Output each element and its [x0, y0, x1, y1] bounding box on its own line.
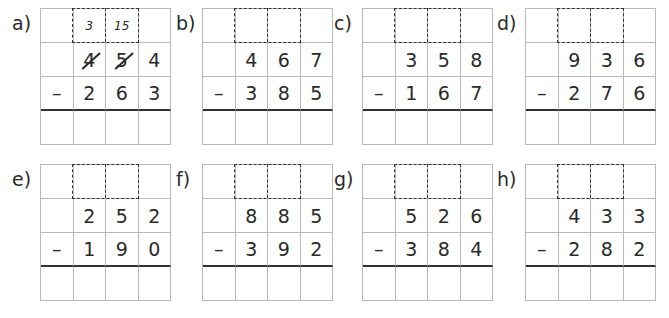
digit-cell: 4: [236, 43, 269, 77]
answer-cell[interactable]: [106, 267, 139, 301]
carry-cell[interactable]: [363, 9, 396, 43]
digit-cell: 9: [559, 43, 592, 77]
answer-cell[interactable]: [41, 111, 74, 145]
carry-cell[interactable]: [461, 165, 494, 199]
answer-cell[interactable]: [396, 111, 429, 145]
answer-cell[interactable]: [139, 111, 172, 145]
digit-cell: 5: [301, 199, 334, 233]
carry-cell[interactable]: [41, 165, 74, 199]
digit-cell: 6: [428, 77, 461, 111]
answer-cell[interactable]: [559, 111, 592, 145]
digit: 4: [245, 49, 257, 71]
digit: 9: [568, 49, 580, 71]
digit-cell: 2: [624, 233, 657, 267]
answer-cell[interactable]: [591, 267, 624, 301]
answer-cell[interactable]: [428, 267, 461, 301]
digit: 9: [278, 238, 290, 260]
carry-cell[interactable]: [591, 9, 624, 43]
answer-cell[interactable]: [203, 267, 236, 301]
answer-cell[interactable]: [396, 267, 429, 301]
carry-cell[interactable]: [559, 165, 592, 199]
column-subtraction-grid: 252–190: [40, 164, 171, 301]
carry-cell[interactable]: [428, 9, 461, 43]
carry-cell[interactable]: [396, 9, 429, 43]
digit-cell: [203, 43, 236, 77]
digit-cell: 3: [396, 233, 429, 267]
answer-cell[interactable]: [139, 267, 172, 301]
problem-label: e): [12, 170, 31, 189]
carry-cell[interactable]: [396, 165, 429, 199]
digit: 8: [470, 49, 482, 71]
digit: 3: [601, 49, 613, 71]
carry-cell[interactable]: [236, 9, 269, 43]
digit-cell: 8: [428, 233, 461, 267]
carry-cell[interactable]: [106, 165, 139, 199]
answer-cell[interactable]: [74, 267, 107, 301]
answer-cell[interactable]: [203, 111, 236, 145]
carry-cell[interactable]: [624, 165, 657, 199]
digit-cell: 5: [396, 199, 429, 233]
digit-cell: 6: [624, 77, 657, 111]
carry-cell[interactable]: [74, 165, 107, 199]
answer-cell[interactable]: [591, 111, 624, 145]
carry-cell[interactable]: [203, 9, 236, 43]
digit-cell: 4: [559, 199, 592, 233]
digit: 7: [470, 82, 482, 104]
carry-cell[interactable]: 15: [106, 9, 139, 43]
digit-cell: 3: [591, 43, 624, 77]
minus-sign: –: [374, 82, 384, 104]
minus-sign-cell: –: [203, 77, 236, 111]
carry-cell[interactable]: [559, 9, 592, 43]
answer-cell[interactable]: [363, 267, 396, 301]
carry-cell[interactable]: [363, 165, 396, 199]
digit: 6: [438, 82, 450, 104]
answer-cell[interactable]: [526, 267, 559, 301]
answer-cell[interactable]: [559, 267, 592, 301]
answer-cell[interactable]: [624, 267, 657, 301]
answer-cell[interactable]: [301, 111, 334, 145]
carry-cell[interactable]: [41, 9, 74, 43]
carry-cell[interactable]: [203, 165, 236, 199]
carry-cell[interactable]: 3: [74, 9, 107, 43]
digit: 3: [405, 238, 417, 260]
carry-cell[interactable]: [268, 9, 301, 43]
digit: 5: [438, 49, 450, 71]
carry-cell[interactable]: [139, 9, 172, 43]
answer-cell[interactable]: [461, 267, 494, 301]
answer-cell[interactable]: [236, 111, 269, 145]
digit: 9: [116, 238, 128, 260]
answer-cell[interactable]: [74, 111, 107, 145]
carry-cell[interactable]: [236, 165, 269, 199]
digit: 2: [83, 82, 95, 104]
answer-cell[interactable]: [461, 111, 494, 145]
answer-cell[interactable]: [268, 111, 301, 145]
carry-cell[interactable]: [301, 9, 334, 43]
answer-cell[interactable]: [236, 267, 269, 301]
carry-cell[interactable]: [301, 165, 334, 199]
answer-cell[interactable]: [624, 111, 657, 145]
digit: 2: [568, 82, 580, 104]
answer-cell[interactable]: [526, 111, 559, 145]
digit-cell: 7: [591, 77, 624, 111]
answer-cell[interactable]: [268, 267, 301, 301]
carry-cell[interactable]: [428, 165, 461, 199]
digit: 2: [438, 205, 450, 227]
answer-cell[interactable]: [428, 111, 461, 145]
digit-cell: 1: [396, 77, 429, 111]
problem-label: g): [334, 170, 353, 189]
carry-cell[interactable]: [268, 165, 301, 199]
answer-cell[interactable]: [301, 267, 334, 301]
carry-cell[interactable]: [461, 9, 494, 43]
carry-cell[interactable]: [591, 165, 624, 199]
answer-cell[interactable]: [363, 111, 396, 145]
answer-cell[interactable]: [41, 267, 74, 301]
digit: 6: [116, 82, 128, 104]
carry-cell[interactable]: [139, 165, 172, 199]
minus-sign-cell: –: [41, 77, 74, 111]
digit-cell: 1: [74, 233, 107, 267]
digit-cell: 3: [396, 43, 429, 77]
carry-cell[interactable]: [526, 9, 559, 43]
carry-cell[interactable]: [624, 9, 657, 43]
answer-cell[interactable]: [106, 111, 139, 145]
carry-cell[interactable]: [526, 165, 559, 199]
